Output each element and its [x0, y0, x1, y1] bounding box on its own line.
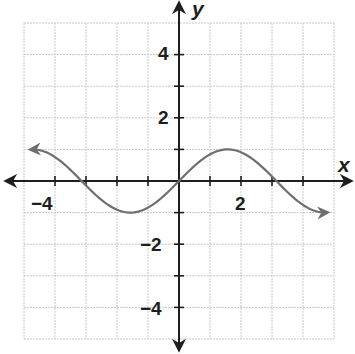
- x-tick-label-2: 2: [235, 193, 246, 214]
- y-tick-label-4: 4: [158, 43, 169, 64]
- y-tick-label-neg2: −2: [140, 234, 162, 255]
- y-axis-label: y: [191, 0, 205, 20]
- x-axis-label: x: [337, 153, 351, 176]
- x-tick-label-neg4: −4: [31, 193, 53, 214]
- sine-graph: y x −4 2 4 2 −2 −4: [0, 0, 355, 354]
- y-tick-label-2: 2: [158, 107, 169, 128]
- y-tick-label-neg4: −4: [140, 298, 162, 319]
